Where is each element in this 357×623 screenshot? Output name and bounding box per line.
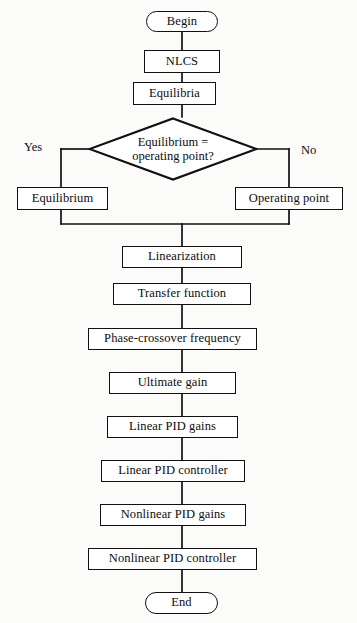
edge-label-yes: Yes bbox=[24, 140, 42, 155]
process-label: Equilibrium bbox=[32, 192, 94, 205]
process-node-linear-pid-gains[interactable]: Linear PID gains bbox=[107, 416, 238, 438]
decision-line-1: Equilibrium = bbox=[132, 135, 214, 149]
process-node-linear-pid-controller[interactable]: Linear PID controller bbox=[101, 460, 245, 482]
process-node-equilibria[interactable]: Equilibria bbox=[133, 82, 216, 105]
process-node-ultimate-gain[interactable]: Ultimate gain bbox=[109, 372, 236, 394]
process-node-nlcs[interactable]: NLCS bbox=[144, 50, 220, 73]
process-label: Phase-crossover frequency bbox=[104, 332, 241, 345]
process-node-nonlinear-pid-controller[interactable]: Nonlinear PID controller bbox=[88, 548, 257, 570]
decision-text: Equilibrium = operating point? bbox=[132, 135, 214, 163]
start-terminator[interactable]: Begin bbox=[146, 11, 218, 32]
process-label: Linear PID gains bbox=[129, 420, 216, 433]
process-node-nonlinear-pid-gains[interactable]: Nonlinear PID gains bbox=[100, 504, 246, 526]
process-label: Linear PID controller bbox=[118, 464, 228, 477]
process-label: Nonlinear PID controller bbox=[109, 552, 236, 565]
edge-label-no: No bbox=[301, 143, 316, 158]
end-label: End bbox=[171, 596, 191, 609]
process-label: Linearization bbox=[148, 250, 216, 263]
process-label: Transfer function bbox=[138, 287, 226, 300]
process-node-operating-point[interactable]: Operating point bbox=[235, 187, 343, 210]
end-terminator[interactable]: End bbox=[145, 592, 218, 614]
process-node-equilibrium[interactable]: Equilibrium bbox=[17, 187, 108, 210]
decision-node-equilibrium-equals-operating-point[interactable]: Equilibrium = operating point? bbox=[88, 117, 258, 181]
process-label: Operating point bbox=[249, 192, 329, 205]
process-label: NLCS bbox=[166, 55, 198, 68]
process-label: Nonlinear PID gains bbox=[121, 508, 226, 521]
process-label: Equilibria bbox=[149, 87, 200, 100]
start-label: Begin bbox=[167, 15, 197, 28]
decision-line-2: operating point? bbox=[132, 149, 214, 163]
process-node-linearization[interactable]: Linearization bbox=[122, 246, 242, 268]
process-node-transfer-function[interactable]: Transfer function bbox=[113, 283, 251, 305]
process-node-phase-crossover-frequency[interactable]: Phase-crossover frequency bbox=[88, 328, 257, 350]
flowchart-canvas: Begin NLCS Equilibria Equilibrium = oper… bbox=[0, 0, 357, 623]
process-label: Ultimate gain bbox=[138, 376, 208, 389]
